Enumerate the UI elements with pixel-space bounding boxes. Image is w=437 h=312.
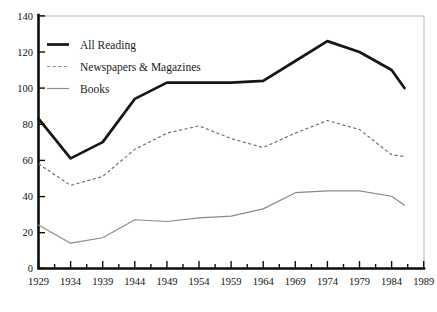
x-tick-marks [39,261,424,268]
y-tick-label: 140 [17,11,33,22]
legend-label-books: Books [80,83,110,95]
y-tick-label: 40 [23,191,34,202]
x-tick-label: 1949 [156,276,177,287]
x-tick-label: 1964 [253,276,275,287]
x-tick-label: 1979 [349,276,370,287]
series-line-books [39,191,405,243]
chart-legend: All Reading Newspapers & Magazines Books [47,39,201,95]
x-tick-label: 1954 [189,276,211,287]
y-axis-tick-labels: 140 120 100 80 60 40 20 0 [17,11,33,275]
x-tick-label: 1934 [60,276,82,287]
x-tick-label: 1959 [221,276,242,287]
y-tick-label: 120 [17,47,33,58]
y-tick-label: 60 [23,155,34,166]
x-tick-label: 1984 [381,276,403,287]
x-tick-label: 1989 [413,276,434,287]
x-tick-label: 1974 [317,276,339,287]
y-tick-label: 0 [28,263,33,274]
legend-label-all-reading: All Reading [80,39,136,52]
legend-label-newspapers-magazines: Newspapers & Magazines [80,61,201,74]
y-tick-label: 100 [17,83,33,94]
y-tick-label: 80 [23,119,34,130]
line-chart-figure: 140 120 100 80 60 40 20 0 [0,0,437,312]
series-line-newspapers-magazines [39,121,405,186]
axis-lines [39,15,425,269]
x-tick-label: 1944 [124,276,146,287]
x-tick-label: 1969 [285,276,306,287]
x-axis-tick-labels: 1929 1934 1939 1944 1949 1954 1959 1964 … [28,276,434,287]
y-tick-label: 20 [23,227,34,238]
x-tick-label: 1939 [92,276,113,287]
x-tick-label: 1929 [28,276,49,287]
series-line-all-reading [39,41,405,158]
chart-svg: 140 120 100 80 60 40 20 0 [0,0,437,312]
plot-frame [38,16,424,268]
